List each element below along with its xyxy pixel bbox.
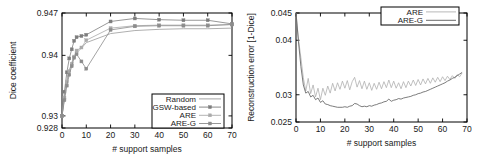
series-marker (61, 114, 64, 117)
x-tick-label: 50 (179, 130, 189, 140)
series-marker (73, 56, 76, 59)
legend-sample-marker (209, 114, 212, 117)
y-tick-label: 0.947 (37, 8, 59, 18)
series-marker (70, 65, 73, 68)
x-tick-label: 20 (340, 124, 350, 134)
chart-panel-left: 0102030405060700.9280.930.940.947# suppo… (0, 0, 242, 165)
y-tick-label: 0.045 (271, 8, 293, 18)
series-marker (206, 24, 209, 27)
x-tick-label: 0 (60, 130, 65, 140)
plot-frame (296, 13, 467, 122)
series-line-are-g (296, 13, 462, 107)
x-tick-label: 10 (316, 124, 326, 134)
x-tick-label: 40 (389, 124, 399, 134)
x-tick-label: 30 (365, 124, 375, 134)
series-marker (68, 73, 71, 76)
y-tick-label: 0.93 (41, 111, 58, 121)
series-marker (80, 35, 83, 38)
series-marker (68, 57, 71, 60)
x-tick-label: 50 (413, 124, 423, 134)
series-marker (80, 46, 83, 49)
series-marker (133, 17, 136, 20)
y-tick-label: 0.03 (275, 90, 292, 100)
legend-sample-marker (209, 122, 212, 125)
y-tick-label: 0.94 (41, 50, 58, 60)
series-marker (182, 24, 185, 27)
x-tick-label: 70 (462, 124, 472, 134)
figure-container: 0102030405060700.9280.930.940.947# suppo… (0, 0, 485, 165)
series-marker (109, 20, 112, 23)
x-tick-label: 0 (294, 124, 299, 134)
series-marker (206, 19, 209, 22)
y-axis-title: Reconstruction error [1-Dice] (246, 13, 256, 122)
series-marker (65, 84, 68, 87)
x-axis-title: # support samples (112, 144, 181, 154)
series-marker (133, 25, 136, 28)
series-marker (158, 18, 161, 21)
x-tick-label: 40 (154, 130, 164, 140)
series-marker (158, 24, 161, 27)
x-tick-label: 10 (82, 130, 92, 140)
series-marker (231, 23, 234, 26)
series-marker (182, 19, 185, 22)
right-plot-svg: 0102030405060700.0250.030.040.045# suppo… (243, 0, 485, 165)
y-tick-label: 0.04 (275, 35, 292, 45)
series-marker (75, 49, 78, 52)
series-marker (70, 48, 73, 51)
y-axis-title: Dice coefficient (8, 41, 18, 99)
series-marker (75, 36, 78, 39)
series-marker (63, 99, 66, 102)
y-tick-label: 0.025 (271, 117, 293, 127)
x-tick-label: 70 (227, 130, 237, 140)
x-tick-label: 60 (203, 130, 213, 140)
series-marker (75, 53, 78, 56)
legend-label-are-g: ARE-G (171, 119, 196, 128)
x-axis-title: # support samples (347, 138, 416, 148)
chart-panel-right: 0102030405060700.0250.030.040.045# suppo… (243, 0, 485, 165)
series-marker (73, 39, 76, 42)
x-tick-label: 30 (130, 130, 140, 140)
left-plot-svg: 0102030405060700.9280.930.940.947# suppo… (0, 0, 242, 165)
series-marker (85, 39, 88, 42)
y-tick-label: 0.928 (37, 123, 59, 133)
series-marker (109, 28, 112, 31)
legend-sample-marker (209, 106, 212, 109)
series-marker (85, 67, 88, 70)
series-marker (80, 60, 83, 63)
legend-label-are-g: ARE-G (398, 16, 423, 25)
x-tick-label: 60 (438, 124, 448, 134)
series-marker (85, 33, 88, 36)
x-tick-label: 20 (106, 130, 116, 140)
